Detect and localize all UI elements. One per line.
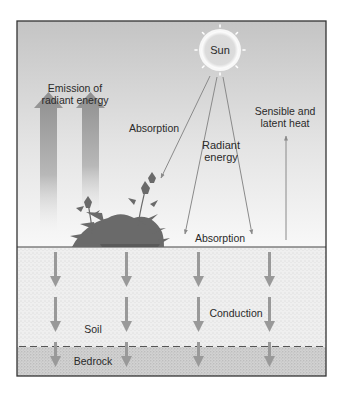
bedrock-layer bbox=[17, 347, 326, 376]
emission-label-line2: radiant energy bbox=[20, 94, 130, 106]
energy-balance-diagram bbox=[0, 0, 340, 393]
atmosphere-region bbox=[17, 21, 326, 247]
radiant-energy-label-line1: Radiant bbox=[196, 139, 246, 151]
conduction-label: Conduction bbox=[204, 307, 268, 319]
sensible-heat-label-line1: Sensible and bbox=[245, 105, 325, 117]
plant-absorption-label: Absorption bbox=[122, 122, 186, 134]
sun-label: Sun bbox=[205, 44, 235, 56]
soil-label: Soil bbox=[78, 323, 108, 335]
emission-label-line1: Emission of bbox=[20, 82, 130, 94]
ground-absorption-label: Absorption bbox=[188, 232, 252, 244]
sensible-heat-label-line2: latent heat bbox=[245, 117, 325, 129]
bedrock-label: Bedrock bbox=[68, 355, 118, 367]
radiant-energy-label-line2: energy bbox=[196, 151, 246, 163]
soil-layer bbox=[17, 247, 326, 347]
